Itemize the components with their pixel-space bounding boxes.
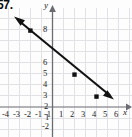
y-axis-arrow <box>49 5 56 12</box>
data-point <box>72 72 76 76</box>
data-point <box>94 94 98 98</box>
x-tick-5: 5 <box>103 110 107 119</box>
x-tick-3: 3 <box>81 110 85 119</box>
x-tick-4: 4 <box>92 110 96 119</box>
y-tick-4: 4 <box>43 80 47 89</box>
x-axis-label: x <box>123 108 127 117</box>
y-axis-label: y <box>44 1 48 10</box>
x-tick-minus-3: -3 <box>13 110 20 119</box>
x-tick-minus-4: -4 <box>2 110 9 119</box>
y-tick-8: 8 <box>43 25 47 34</box>
y-tick-minus-1: -1 <box>44 110 51 119</box>
graph-figure: 57. <box>0 0 132 137</box>
y-tick-5: 5 <box>43 69 47 78</box>
y-tick-3: 3 <box>43 91 47 100</box>
x-tick-6: 6 <box>114 110 118 119</box>
y-tick-minus-2: -2 <box>42 122 49 131</box>
data-point <box>28 28 32 32</box>
y-tick-6: 6 <box>43 58 47 67</box>
x-tick-2: 2 <box>70 110 74 119</box>
x-tick-minus-1: -1 <box>35 110 42 119</box>
x-tick-minus-2: -2 <box>24 110 31 119</box>
x-tick-1: 1 <box>59 110 63 119</box>
